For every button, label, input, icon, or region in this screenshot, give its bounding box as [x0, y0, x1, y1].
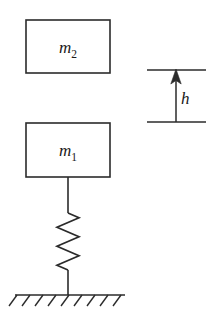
drop-height-label: h: [181, 89, 190, 108]
ground-hatch-mark: [22, 295, 30, 306]
ground-hatch-mark: [48, 295, 56, 306]
mass-m2-symbol: m: [59, 38, 71, 57]
ground-hatch-mark: [87, 295, 95, 306]
ground-hatching: [9, 295, 121, 306]
spring-assembly: [57, 177, 79, 295]
ground-hatch-mark: [61, 295, 69, 306]
physics-diagram: m2 m1: [0, 0, 221, 317]
spring-coil-icon: [57, 213, 79, 270]
diagram-canvas: m2 m1: [0, 0, 221, 317]
ground-hatch-mark: [100, 295, 108, 306]
fixed-ground-group: [9, 295, 125, 306]
mass-m1-symbol: m: [59, 141, 71, 160]
mass-m2-subscript: 2: [71, 48, 77, 60]
mass-m1-subscript: 1: [71, 151, 77, 163]
ground-hatch-mark: [74, 295, 82, 306]
mass-m2-group: m2: [26, 20, 110, 73]
drop-height-dimension: h: [147, 69, 206, 122]
mass-m1-group: m1: [26, 123, 110, 177]
ground-hatch-mark: [35, 295, 43, 306]
ground-hatch-mark: [9, 295, 17, 306]
ground-hatch-mark: [113, 295, 121, 306]
